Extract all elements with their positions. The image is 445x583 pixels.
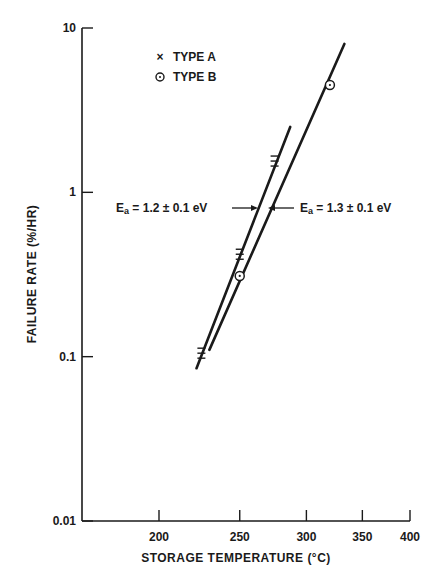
- y-tick-label: 0.01: [53, 514, 77, 528]
- legend-item-type-b: TYPE B: [156, 70, 217, 84]
- x-axis-title: STORAGE TEMPERATURE (°C): [141, 551, 331, 565]
- annotation-label-type-a: Ea = 1.2 ± 0.1 eV: [116, 201, 207, 216]
- x-tick-label: 400: [400, 530, 420, 544]
- x-marker-icon: ×: [156, 50, 163, 64]
- legend-item-type-a: × TYPE A: [156, 50, 216, 64]
- x-tick-label: 300: [296, 530, 316, 544]
- fit-line: [209, 44, 344, 350]
- legend: × TYPE A TYPE B: [156, 50, 217, 84]
- annotation-label-type-b: Ea = 1.3 ± 0.1 eV: [300, 201, 391, 216]
- y-tick-label: 1: [69, 185, 76, 199]
- series-type-b: [209, 44, 344, 350]
- y-ticks: 1010.10.01: [53, 21, 93, 528]
- fit-line: [197, 127, 291, 368]
- axes: [82, 28, 410, 521]
- y-tick-label: 10: [63, 21, 77, 35]
- legend-label-type-a: TYPE A: [173, 50, 216, 64]
- annotation-type-b: Ea = 1.3 ± 0.1 eV: [268, 201, 391, 216]
- x-ticks: 200250300350400: [149, 510, 420, 544]
- x-tick-label: 250: [230, 530, 250, 544]
- circle-dot-marker-icon: [156, 73, 164, 81]
- annotation-type-a: Ea = 1.2 ± 0.1 eV: [116, 201, 258, 216]
- legend-label-type-b: TYPE B: [173, 70, 217, 84]
- arrhenius-chart: 1010.10.01 200250300350400 STORAGE TEMPE…: [0, 0, 445, 583]
- y-axis-title: FAILURE RATE (%/HR): [25, 205, 39, 344]
- series-type-a: [197, 127, 291, 368]
- x-tick-label: 200: [149, 530, 169, 544]
- arrow-right-icon: [232, 205, 258, 211]
- x-tick-label: 350: [352, 530, 372, 544]
- y-tick-label: 0.1: [59, 350, 76, 364]
